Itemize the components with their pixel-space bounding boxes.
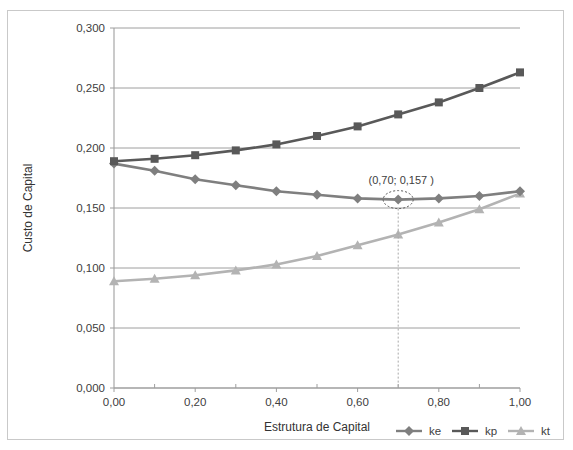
series-kp	[110, 68, 524, 165]
y-tick-label: 0,000	[76, 382, 105, 394]
annotation-label: (0,70; 0,157 )	[368, 174, 433, 186]
chart-plot: 0,0000,0500,1000,1500,2000,2500,3000,000…	[8, 11, 565, 441]
series-ke	[109, 159, 525, 205]
marker-diamond	[231, 180, 241, 190]
marker-square	[435, 98, 443, 106]
chart-frame: 0,0000,0500,1000,1500,2000,2500,3000,000…	[7, 10, 564, 440]
marker-diamond	[150, 166, 160, 176]
legend-label-kt: kt	[541, 425, 551, 437]
marker-square	[313, 132, 321, 140]
y-axis-title: Custo de Capital	[21, 164, 35, 253]
x-tick-label: 0,60	[346, 396, 368, 408]
legend-label-ke: ke	[429, 425, 441, 437]
x-tick-label: 0,20	[184, 396, 206, 408]
annotation-highlight: (0,70; 0,157 )	[368, 174, 433, 388]
marker-square	[272, 140, 280, 148]
marker-diamond	[312, 190, 322, 200]
y-tick-label: 0,100	[76, 262, 105, 274]
marker-square	[191, 151, 199, 159]
x-tick-label: 0,40	[265, 396, 287, 408]
marker-diamond	[271, 186, 281, 196]
chart-legend: kekpkt	[396, 425, 551, 437]
x-tick-label: 1,00	[509, 396, 531, 408]
marker-square	[232, 146, 240, 154]
y-tick-label: 0,050	[76, 322, 105, 334]
marker-diamond	[434, 193, 444, 203]
series-kt	[109, 189, 525, 286]
y-tick-label: 0,150	[76, 202, 105, 214]
marker-square	[110, 157, 118, 165]
marker-diamond	[190, 174, 200, 184]
marker-diamond	[353, 193, 363, 203]
marker-square	[151, 155, 159, 163]
x-tick-label: 0,80	[428, 396, 450, 408]
y-tick-label: 0,250	[76, 82, 105, 94]
x-tick-label: 0,00	[103, 396, 125, 408]
marker-square	[354, 122, 362, 130]
marker-diamond	[404, 426, 414, 436]
y-tick-label: 0,300	[76, 22, 105, 34]
marker-square	[461, 427, 469, 435]
x-axis-title: Estrutura de Capital	[264, 420, 370, 434]
marker-square	[516, 68, 524, 76]
marker-square	[475, 84, 483, 92]
marker-diamond	[393, 195, 403, 205]
y-tick-label: 0,200	[76, 142, 105, 154]
marker-square	[394, 110, 402, 118]
legend-label-kp: kp	[485, 425, 497, 437]
marker-diamond	[474, 191, 484, 201]
